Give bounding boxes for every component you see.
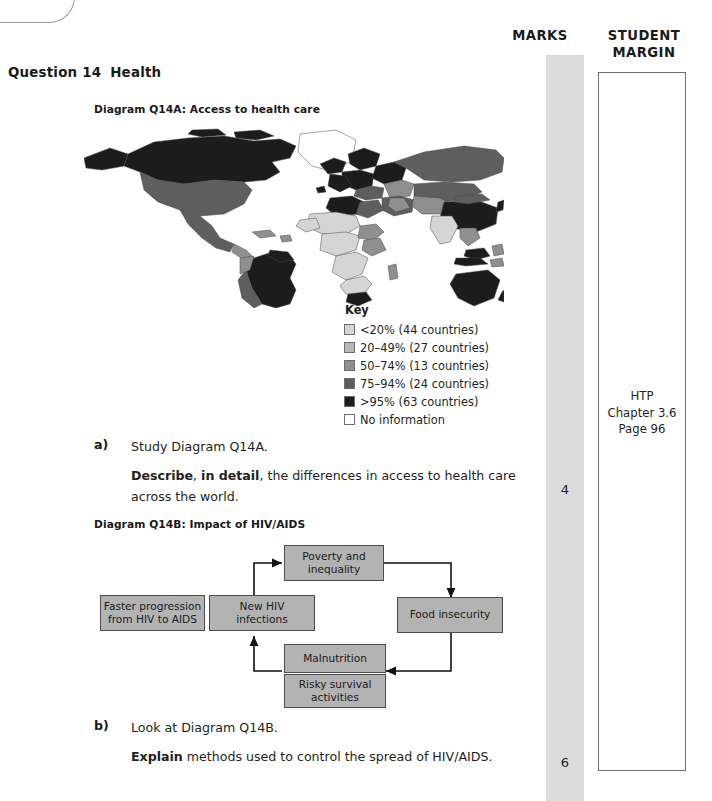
part-a-line2: Describe, in detail, the differences in … [131, 466, 534, 507]
legend-label-20-49: 20–49% (27 countries) [360, 341, 489, 355]
marks-column-header: MARKS [506, 28, 574, 45]
legend-swatch-no-information [344, 414, 355, 425]
margin-reference-line2: Chapter 3.6 [598, 405, 686, 422]
question-heading: Question 14Health [8, 65, 161, 80]
marks-value-part-a: 4 [546, 482, 584, 497]
question-number: Question 14 [8, 65, 101, 80]
flow-node-poverty-and-inequality: Poverty and inequality [284, 545, 384, 581]
legend-label-50-74: 50–74% (13 countries) [360, 359, 489, 373]
legend-swatch-over-95 [344, 396, 355, 407]
flow-node-new-hiv-infections: New HIV infections [209, 595, 315, 631]
exam-page: MARKS STUDENT MARGIN 4 6 HTP Chapter 3.6… [0, 0, 712, 801]
flow-node-food-label: Food insecurity [410, 608, 491, 621]
flow-node-food-insecurity: Food insecurity [397, 597, 503, 633]
flow-node-risky-survival-activities: Risky survival activities [284, 674, 386, 708]
part-b-rest: methods used to control the spread of HI… [183, 749, 493, 764]
legend-label-under-20: <20% (44 countries) [360, 323, 478, 337]
legend-item: 50–74% (13 countries) [344, 357, 534, 374]
question-part-b: b) Look at Diagram Q14B. Explain methods… [94, 718, 534, 768]
margin-reference-line3: Page 96 [598, 421, 686, 438]
diagram-q14b-caption: Diagram Q14B: Impact of HIV/AIDS [94, 518, 305, 531]
margin-reference-note: HTP Chapter 3.6 Page 96 [598, 388, 686, 438]
part-a-label: a) [94, 437, 108, 452]
student-margin-header-line1: STUDENT [586, 28, 702, 45]
question-part-a: a) Study Diagram Q14A. Describe, in deta… [94, 437, 534, 507]
legend-label-75-94: 75–94% (24 countries) [360, 377, 489, 391]
flow-node-faster-line2: from HIV to AIDS [108, 613, 197, 625]
map-legend: Key <20% (44 countries) 20–49% (27 count… [344, 303, 534, 429]
world-map-access-to-health-care [84, 128, 504, 308]
part-b-label: b) [94, 718, 109, 733]
flow-node-malnutrition-label: Malnutrition [303, 652, 367, 665]
flow-node-newhiv-line1: New HIV [240, 600, 285, 612]
legend-swatch-under-20 [344, 324, 355, 335]
flow-node-newhiv-line2: infections [236, 613, 288, 625]
flow-node-faster-line1: Faster progression [104, 600, 201, 612]
flow-node-faster-progression: Faster progression from HIV to AIDS [100, 595, 205, 631]
part-b-body: Look at Diagram Q14B. Explain methods us… [131, 718, 534, 768]
diagram-q14a-caption: Diagram Q14A: Access to health care [94, 103, 320, 116]
legend-item: <20% (44 countries) [344, 321, 534, 338]
legend-swatch-50-74 [344, 360, 355, 371]
legend-item: >95% (63 countries) [344, 393, 534, 410]
part-a-line1: Study Diagram Q14A. [131, 437, 534, 457]
legend-swatch-20-49 [344, 342, 355, 353]
part-a-bold-describe: Describe [131, 468, 193, 483]
legend-item: 20–49% (27 countries) [344, 339, 534, 356]
hiv-aids-impact-flow-diagram: Faster progression from HIV to AIDS New … [94, 536, 524, 711]
legend-item: 75–94% (24 countries) [344, 375, 534, 392]
legend-item: No information [344, 411, 534, 428]
marks-value-part-b: 6 [546, 755, 584, 770]
flow-node-malnutrition: Malnutrition [284, 644, 386, 673]
student-margin-header-line2: MARGIN [586, 45, 702, 62]
part-a-comma: , [193, 468, 201, 483]
legend-label-no-information: No information [360, 413, 445, 427]
legend-label-over-95: >95% (63 countries) [360, 395, 478, 409]
part-b-line1: Look at Diagram Q14B. [131, 718, 534, 738]
part-b-line2: Explain methods used to control the spre… [131, 747, 534, 767]
flow-node-poverty-line2: inequality [308, 563, 360, 575]
flow-node-risky-line1: Risky survival [299, 678, 372, 690]
legend-swatch-75-94 [344, 378, 355, 389]
flow-node-poverty-line1: Poverty and [302, 550, 365, 562]
student-margin-column-header: STUDENT MARGIN [586, 28, 702, 62]
page-curl-artifact [0, 0, 75, 23]
margin-reference-line1: HTP [598, 388, 686, 405]
part-b-bold-explain: Explain [131, 749, 183, 764]
marks-column-strip [546, 55, 584, 801]
flow-node-risky-line2: activities [311, 691, 359, 703]
legend-title: Key [345, 303, 534, 317]
part-a-body: Study Diagram Q14A. Describe, in detail,… [131, 437, 534, 507]
question-topic: Health [110, 65, 161, 80]
part-a-bold-in-detail: in detail [201, 468, 259, 483]
